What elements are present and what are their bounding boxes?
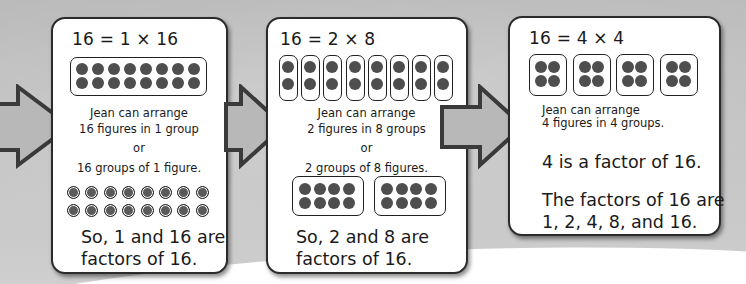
counter-dot-icon [343,197,355,209]
counter-dot-icon [349,61,361,73]
counter-dot-icon [535,75,547,87]
arrangement-text: Jean can arrange 4 figures in 4 groups. [542,102,664,131]
text-line: Jean can arrange [268,105,465,121]
conclusion: The factors of 16 are 1, 2, 4, 8, and 16… [542,189,725,233]
group-of-two [323,55,342,101]
group-of-two [279,55,298,101]
text-line: factors of 16. [81,248,225,270]
counter-dot-icon [196,186,209,199]
counter-dot-icon [410,183,422,195]
counter-dot-icon [437,61,449,73]
group-of-four [616,54,654,96]
counter-dot-icon [159,186,172,199]
counter-dot-icon [141,186,154,199]
text-line: So, 2 and 8 are [296,226,429,248]
counter-dot-icon [76,63,88,75]
counter-dot-icon [371,61,383,73]
counter-dot-icon [592,61,604,73]
counter-dot-icon [104,204,117,217]
counter-dot-icon [67,204,80,217]
counter-dot-icon [172,63,184,75]
counter-dot-icon [548,75,560,87]
counter-dot-icon [140,63,152,75]
counter-dot-icon [304,78,316,90]
counter-dot-icon [666,75,678,87]
counter-dot-icon [177,186,190,199]
counter-dot-icon [679,75,691,87]
text-line: 2 figures in 8 groups [268,121,465,137]
text-line: 16 figures in 1 group [53,121,225,137]
counter-dot-icon [592,75,604,87]
arrangement-text: Jean can arrange 16 figures in 1 group o… [53,105,225,176]
counter-dot-icon [410,197,422,209]
counter-dot-icon [108,77,120,89]
counter-dot-icon [156,63,168,75]
group-of-two [368,55,387,101]
text-line: factors of 16. [296,248,429,270]
text-line: The factors of 16 are [542,189,725,211]
counter-dot-icon [124,77,136,89]
counter-dot-icon [282,78,294,90]
counter-dot-icon [156,77,168,89]
counter-dot-icon [159,204,172,217]
group-of-two [390,55,409,101]
equation: 16 = 1 × 16 [72,29,178,49]
counter-dot-icon [314,183,326,195]
counter-dot-icon [425,183,437,195]
counter-dot-icon [635,75,647,87]
counter-dot-icon [85,204,98,217]
counter-dot-icon [76,77,88,89]
counter-dot-icon [299,197,311,209]
factor-statement: 4 is a factor of 16. [542,151,702,173]
one-group-of-sixteen [70,57,207,96]
counter-dot-icon [349,78,361,90]
counter-dot-icon [85,186,98,199]
counter-dot-icon [282,61,294,73]
counter-dot-icon [299,183,311,195]
counter-dot-icon [188,63,200,75]
group-of-eight-a [292,176,364,216]
factor-card-1x16: 16 = 1 × 16 Jean can arrange 16 figures … [51,17,228,274]
counter-dot-icon [396,197,408,209]
counter-dot-icon [548,61,560,73]
group-of-four [529,54,567,96]
text-line: or [53,140,225,156]
counter-dot-icon [381,197,393,209]
counter-dot-icon [396,183,408,195]
text-line: 1, 2, 4, 8, and 16. [542,211,725,233]
equation: 16 = 4 × 4 [529,28,624,48]
group-of-four [573,54,611,96]
group-of-four [660,54,698,96]
counter-dot-icon [535,61,547,73]
counter-dot-icon [371,78,383,90]
counter-dot-icon [415,78,427,90]
text-line: Jean can arrange [53,105,225,121]
counter-dot-icon [326,61,338,73]
counter-dot-icon [381,183,393,195]
counter-dot-icon [328,183,340,195]
counter-dot-icon [140,77,152,89]
counter-dot-icon [104,186,117,199]
counter-dot-icon [122,186,135,199]
text-line: 16 groups of 1 figure. [53,160,225,176]
counter-dot-icon [328,197,340,209]
counter-dot-icon [304,61,316,73]
text-line: or [268,140,465,156]
counter-dot-icon [92,63,104,75]
counter-dot-icon [172,77,184,89]
eight-groups-of-two [279,55,459,101]
conclusion: So, 1 and 16 are factors of 16. [81,226,225,270]
group-of-eight-b [374,176,446,216]
conclusion: So, 2 and 8 are factors of 16. [296,226,429,270]
counter-dot-icon [393,61,405,73]
counter-dot-icon [67,186,80,199]
counter-dot-icon [622,61,634,73]
equation: 16 = 2 × 8 [280,29,375,49]
counter-dot-icon [314,197,326,209]
counter-dot-icon [122,204,135,217]
sixteen-groups-of-one [67,186,217,224]
group-of-two [346,55,365,101]
counter-dot-icon [579,75,591,87]
counter-dot-icon [622,75,634,87]
counter-dot-icon [141,204,154,217]
